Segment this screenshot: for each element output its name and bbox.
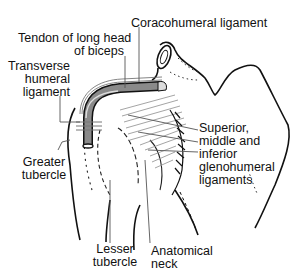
label-transverse-humeral-line1: Transverse [8, 59, 70, 73]
label-greater-tubercle-line2: tubercle [20, 168, 68, 182]
label-biceps-tendon-line2: of biceps [18, 44, 124, 58]
label-lesser-tubercle-line2: tubercle [92, 255, 138, 269]
humeral-head [84, 128, 162, 195]
leader-lines [58, 27, 198, 243]
label-biceps-tendon-line1: Tendon of long head [18, 31, 124, 45]
biceps-tendon [83, 81, 167, 148]
label-glenohumeral-line3: inferior [199, 147, 237, 161]
label-anatomical-neck-line2: neck [151, 257, 177, 271]
label-glenohumeral-line5: ligaments [199, 173, 253, 187]
glenoid-labrum [170, 110, 185, 195]
shoulder-ligament-diagram: Coracohumeral ligament Tendon of long he… [0, 0, 299, 277]
label-glenohumeral-line2: middle and [199, 134, 260, 148]
label-lesser-tubercle-line1: Lesser [92, 242, 138, 256]
label-glenohumeral-line1: Superior, [199, 121, 249, 135]
glenohumeral-ligaments [120, 95, 186, 168]
label-glenohumeral-line4: glenohumeral [199, 160, 275, 174]
label-transverse-humeral-line3: ligament [8, 85, 70, 99]
label-anatomical-neck-line1: Anatomical [151, 244, 213, 258]
label-transverse-humeral-line2: humeral [8, 72, 70, 86]
label-greater-tubercle-line1: Greater [20, 155, 68, 169]
label-coracohumeral-ligament: Coracohumeral ligament [131, 16, 267, 30]
